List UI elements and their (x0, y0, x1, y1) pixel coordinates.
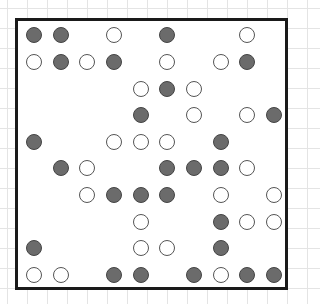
filled-circle[interactable] (133, 267, 149, 283)
filled-circle[interactable] (266, 107, 282, 123)
filled-circle[interactable] (239, 54, 255, 70)
open-circle[interactable] (239, 160, 255, 176)
open-circle[interactable] (186, 107, 202, 123)
filled-circle[interactable] (26, 27, 42, 43)
open-circle[interactable] (186, 81, 202, 97)
filled-circle[interactable] (266, 267, 282, 283)
open-circle[interactable] (133, 134, 149, 150)
open-circle[interactable] (79, 54, 95, 70)
open-circle[interactable] (239, 107, 255, 123)
filled-circle[interactable] (53, 160, 69, 176)
filled-circle[interactable] (133, 107, 149, 123)
open-circle[interactable] (239, 27, 255, 43)
open-circle[interactable] (106, 134, 122, 150)
open-circle[interactable] (266, 214, 282, 230)
open-circle[interactable] (133, 240, 149, 256)
open-circle[interactable] (133, 214, 149, 230)
open-circle[interactable] (159, 54, 175, 70)
filled-circle[interactable] (213, 160, 229, 176)
open-circle[interactable] (133, 81, 149, 97)
open-circle[interactable] (79, 187, 95, 203)
filled-circle[interactable] (159, 27, 175, 43)
game-board (15, 18, 288, 290)
filled-circle[interactable] (213, 134, 229, 150)
open-circle[interactable] (213, 187, 229, 203)
open-circle[interactable] (159, 134, 175, 150)
open-circle[interactable] (213, 54, 229, 70)
open-circle[interactable] (53, 267, 69, 283)
filled-circle[interactable] (133, 187, 149, 203)
open-circle[interactable] (266, 187, 282, 203)
open-circle[interactable] (26, 54, 42, 70)
filled-circle[interactable] (26, 134, 42, 150)
open-circle[interactable] (159, 240, 175, 256)
filled-circle[interactable] (159, 160, 175, 176)
filled-circle[interactable] (186, 160, 202, 176)
filled-circle[interactable] (106, 187, 122, 203)
filled-circle[interactable] (159, 187, 175, 203)
open-circle[interactable] (106, 27, 122, 43)
filled-circle[interactable] (106, 54, 122, 70)
filled-circle[interactable] (26, 240, 42, 256)
filled-circle[interactable] (53, 54, 69, 70)
open-circle[interactable] (239, 214, 255, 230)
open-circle[interactable] (79, 160, 95, 176)
open-circle[interactable] (26, 267, 42, 283)
filled-circle[interactable] (106, 267, 122, 283)
filled-circle[interactable] (53, 27, 69, 43)
filled-circle[interactable] (186, 267, 202, 283)
filled-circle[interactable] (159, 81, 175, 97)
filled-circle[interactable] (213, 240, 229, 256)
filled-circle[interactable] (213, 214, 229, 230)
filled-circle[interactable] (239, 267, 255, 283)
open-circle[interactable] (213, 267, 229, 283)
